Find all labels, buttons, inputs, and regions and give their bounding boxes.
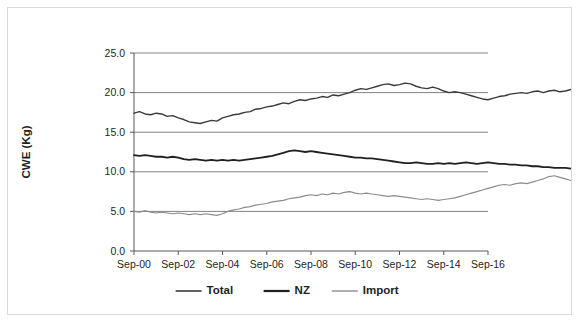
y-tick-label: 25.0 [105, 47, 126, 59]
line-chart: 0.05.010.015.020.025.0 Sep-00Sep-02Sep-0… [8, 8, 571, 314]
x-tick-label: Sep-16 [471, 258, 505, 270]
y-tick-label: 0.0 [110, 245, 125, 257]
legend-label-nz: NZ [295, 284, 310, 296]
legend-label-import: Import [363, 284, 399, 296]
series-line-total [134, 69, 571, 124]
figure-frame: 0.05.010.015.020.025.0 Sep-00Sep-02Sep-0… [7, 7, 572, 315]
x-axis-ticks: Sep-00Sep-02Sep-04Sep-06Sep-08Sep-10Sep-… [117, 251, 505, 270]
x-tick-label: Sep-02 [161, 258, 195, 270]
y-tick-label: 5.0 [110, 205, 125, 217]
chart-legend: TotalNZImport [176, 284, 399, 296]
x-tick-label: Sep-10 [338, 258, 372, 270]
x-tick-label: Sep-04 [206, 258, 240, 270]
series-lines [134, 69, 571, 216]
x-tick-label: Sep-00 [117, 258, 151, 270]
x-tick-label: Sep-08 [294, 258, 328, 270]
y-tick-label: 20.0 [105, 86, 126, 98]
series-line-nz [134, 150, 571, 177]
y-axis-title: CWE (Kg) [20, 125, 32, 178]
x-tick-label: Sep-12 [383, 258, 417, 270]
x-tick-label: Sep-14 [427, 258, 461, 270]
y-tick-label: 10.0 [105, 165, 126, 177]
x-tick-label: Sep-06 [250, 258, 284, 270]
y-tick-label: 15.0 [105, 126, 126, 138]
legend-label-total: Total [207, 284, 234, 296]
y-axis-ticks: 0.05.010.015.020.025.0 [105, 47, 134, 257]
